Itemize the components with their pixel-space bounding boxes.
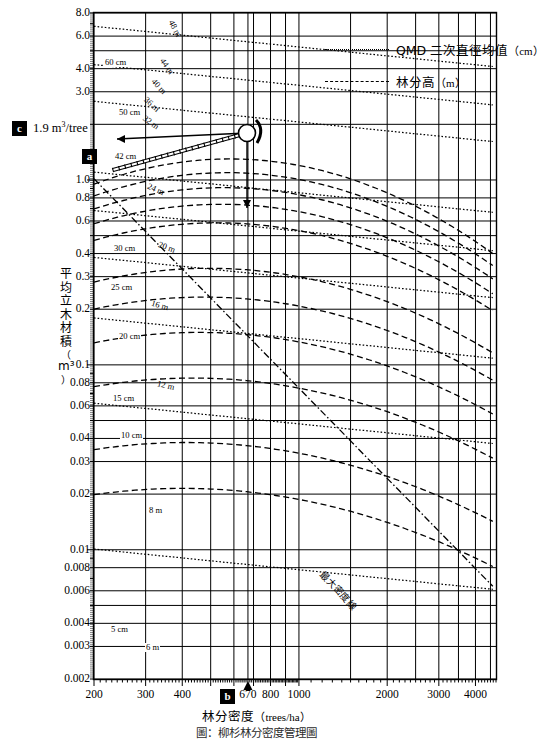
y-tick-3p0: 3.0 (76, 86, 90, 98)
y-tick-0p1: 0.1 (76, 359, 90, 371)
y-axis-title-char-7: m³ (58, 360, 74, 374)
qmd-label-5cm: 5 cm (110, 625, 129, 634)
y-axis-title-char-4: 材 (58, 322, 74, 336)
y-tick-0p02: 0.02 (70, 488, 90, 500)
legend-swatch-dotted (325, 49, 389, 50)
y-tick-0p4: 0.4 (76, 248, 90, 260)
legend-label-height: 林分高（m） (396, 72, 466, 91)
marker-c-box: c (12, 121, 27, 136)
legend-qmd-text: QMD 二次直徑均值 (396, 43, 508, 58)
marker-a-box: a (82, 149, 97, 164)
y-tick-0p01: 0.01 (70, 544, 90, 556)
y-tick-1p0: 1.0 (76, 174, 90, 186)
y-tick-0p06: 0.06 (70, 400, 90, 412)
qmd-label-60cm: 60 cm (104, 58, 127, 67)
y-tick-0p002: 0.002 (64, 673, 90, 685)
y-axis-title-char-0: 平 (58, 268, 74, 282)
qmd-label-20cm: 20 cm (118, 332, 141, 341)
y-tick-4p0: 4.0 (76, 63, 90, 75)
x-tick-800: 800 (262, 688, 279, 700)
y-tick-8p0: 8.0 (76, 7, 90, 19)
qmd-label-30cm: 30 cm (113, 244, 136, 253)
y-tick-6p0: 6.0 (76, 30, 90, 42)
qmd-label-15cm: 15 cm (112, 394, 135, 403)
x-axis-title: 林分密度（trees/ha） (0, 706, 513, 725)
y-tick-0p006: 0.006 (64, 585, 90, 597)
y-tick-0p2: 0.2 (76, 303, 90, 315)
y-tick-0p03: 0.03 (70, 456, 90, 468)
legend-swatch-dashed (325, 81, 389, 82)
y-axis-title: 平均立木材積（m³） (58, 268, 74, 385)
marker-c-value-tail: /tree (65, 122, 87, 136)
x-tick-1000: 1000 (287, 688, 310, 700)
y-tick-0p8: 0.8 (76, 192, 90, 204)
legend: QMD 二次直徑均值（cm） 林分高（m） (325, 40, 541, 104)
x-axis-title-main: 林分密度 (202, 709, 254, 724)
x-tick-400: 400 (174, 688, 191, 700)
legend-height-text: 林分高 (396, 75, 435, 90)
x-tick-4000: 4000 (464, 688, 487, 700)
x-tick-670: 670 (239, 688, 256, 700)
y-axis-title-char-3: 木 (58, 309, 74, 323)
marker-c-value: 1.9 m3/tree (33, 120, 88, 136)
qmd-label-50cm: 50 cm (118, 108, 141, 117)
x-tick-300: 300 (137, 688, 154, 700)
qmd-label-10cm: 10 cm (120, 431, 143, 440)
figure-caption: 圖：柳杉林分密度管理圖 (0, 724, 513, 739)
marker-c-value-text: 1.9 m (33, 122, 61, 136)
qmd-label-25cm: 25 cm (110, 283, 133, 292)
y-tick-0p04: 0.04 (70, 433, 90, 445)
y-axis-tick-labels: 8.06.04.03.01.00.80.60.40.30.20.10.080.0… (0, 0, 90, 700)
y-tick-0p008: 0.008 (64, 562, 90, 574)
x-tick-3000: 3000 (427, 688, 450, 700)
height-label-8m: 8 m (148, 506, 163, 515)
legend-item-qmd: QMD 二次直徑均值（cm） (325, 40, 541, 59)
legend-label-qmd: QMD 二次直徑均值（cm） (396, 40, 541, 59)
x-tick-200: 200 (85, 688, 102, 700)
height-label-6m: 6 m (145, 643, 160, 652)
legend-qmd-unit: （cm） (508, 45, 541, 57)
x-tick-2000: 2000 (376, 688, 399, 700)
x-axis-tick-labels: 2003004006708001000200030004000 (0, 688, 513, 708)
y-tick-0p004: 0.004 (64, 618, 90, 630)
y-tick-0p3: 0.3 (76, 271, 90, 283)
qmd-label-42cm: 42 cm (114, 152, 137, 161)
y-axis-title-char-8: ） (58, 374, 74, 385)
y-axis-title-char-5: 積 (58, 336, 74, 350)
x-axis-title-unit: （trees/ha） (254, 711, 310, 723)
legend-item-height: 林分高（m） (325, 72, 541, 91)
y-tick-0p6: 0.6 (76, 215, 90, 227)
y-axis-title-char-2: 立 (58, 295, 74, 309)
y-axis-title-char-1: 均 (58, 282, 74, 296)
y-tick-0p003: 0.003 (64, 641, 90, 653)
legend-height-unit: （m） (435, 77, 466, 89)
